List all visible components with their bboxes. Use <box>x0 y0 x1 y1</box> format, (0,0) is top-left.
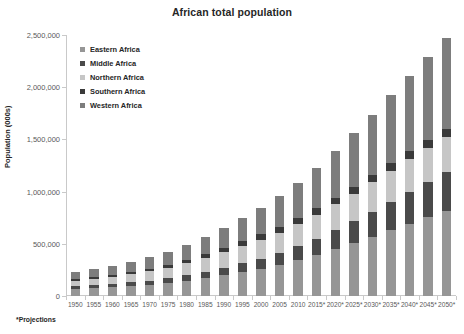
x-tick-label: 2035* <box>382 301 399 308</box>
y-tick-label: 2,500,000 <box>4 31 60 40</box>
bar-segment <box>349 194 359 222</box>
bar-segment <box>423 182 433 218</box>
x-tick-label: 1955 <box>87 301 102 308</box>
bar-segment <box>386 230 396 296</box>
bar-segment <box>238 218 248 241</box>
x-tick-label: 2050* <box>438 301 455 308</box>
legend-item[interactable]: Western Africa <box>80 98 145 112</box>
legend-item[interactable]: Eastern Africa <box>80 42 145 56</box>
chart-title: African total population <box>0 6 464 18</box>
x-tick-label: 2030* <box>364 301 381 308</box>
bar-segment <box>423 148 433 181</box>
bar-segment <box>349 243 359 296</box>
bar-segment <box>331 198 341 205</box>
bar-segment <box>405 159 415 191</box>
bar-segment <box>368 212 378 237</box>
bar-segment <box>442 211 452 296</box>
bar-stack <box>368 115 378 296</box>
x-tick-label: 1990 <box>217 301 232 308</box>
legend-label: Northern Africa <box>90 73 144 82</box>
bar-stack <box>163 252 173 296</box>
x-tick-label: 1995 <box>235 301 250 308</box>
bar-segment <box>201 237 211 254</box>
bar-segment <box>331 151 341 198</box>
legend-item[interactable]: Southern Africa <box>80 84 145 98</box>
bar-segment <box>182 245 192 260</box>
bar-segment <box>163 283 173 296</box>
x-tick-label: 2005 <box>272 301 287 308</box>
bar-segment <box>182 281 192 296</box>
x-tick-label: 1950 <box>68 301 83 308</box>
bar-stack <box>182 245 192 296</box>
y-tick <box>62 192 66 193</box>
bar-segment <box>442 137 452 171</box>
x-tick <box>103 296 104 300</box>
bar-segment <box>331 204 341 230</box>
x-tick-label: 2000 <box>254 301 269 308</box>
bar-segment <box>312 239 322 255</box>
bar-stack <box>349 133 359 296</box>
legend-swatch-icon <box>80 89 85 94</box>
x-tick-label: 1985 <box>198 301 213 308</box>
bar-segment <box>405 151 415 159</box>
x-tick-label: 2025* <box>345 301 362 308</box>
legend-swatch-icon <box>80 61 85 66</box>
bar-segment <box>89 288 99 296</box>
bar-segment <box>238 272 248 296</box>
bar-segment <box>349 187 359 194</box>
x-tick <box>159 296 160 300</box>
bar-segment <box>275 196 285 227</box>
bar-segment <box>219 275 229 296</box>
bar-segment <box>145 271 155 280</box>
bar-segment <box>182 263 192 275</box>
bar-segment <box>219 228 229 248</box>
bar-segment <box>126 274 136 282</box>
x-tick-label: 1975 <box>161 301 176 308</box>
bar-stack <box>442 38 452 296</box>
bar-segment <box>71 289 81 296</box>
bar-segment <box>442 129 452 137</box>
y-tick <box>62 244 66 245</box>
bar-stack <box>201 237 211 296</box>
legend-item[interactable]: Northern Africa <box>80 70 145 84</box>
x-tick <box>215 296 216 300</box>
bar-stack <box>256 208 266 296</box>
bar-segment <box>312 168 322 209</box>
x-tick <box>289 296 290 300</box>
legend-item[interactable]: Middle Africa <box>80 56 145 70</box>
bar-segment <box>368 182 378 211</box>
y-tick <box>62 139 66 140</box>
bar-stack <box>145 257 155 296</box>
x-tick <box>456 296 457 300</box>
legend-label: Eastern Africa <box>90 45 140 54</box>
chart-container: African total population Population (000… <box>0 0 464 334</box>
x-tick-label: 2010 <box>291 301 306 308</box>
bar-segment <box>349 221 359 243</box>
bar-stack <box>293 183 303 296</box>
bar-segment <box>275 265 285 296</box>
bar-segment <box>312 255 322 296</box>
x-tick-label: 2020* <box>327 301 344 308</box>
bar-segment <box>312 215 322 239</box>
bar-segment <box>368 237 378 296</box>
bar-stack <box>238 218 248 296</box>
bar-segment <box>201 278 211 296</box>
bar-stack <box>423 57 433 296</box>
bar-segment <box>201 258 211 272</box>
bar-segment <box>423 217 433 296</box>
bar-stack <box>386 95 396 296</box>
bar-segment <box>368 115 378 175</box>
x-tick <box>122 296 123 300</box>
bar-segment <box>386 202 396 230</box>
bar-segment <box>386 95 396 163</box>
x-tick <box>437 296 438 300</box>
bar-segment <box>293 224 303 246</box>
x-tick-label: 1960 <box>105 301 120 308</box>
bar-segment <box>423 140 433 148</box>
bar-segment <box>275 233 285 253</box>
x-tick-label: 2015* <box>308 301 325 308</box>
y-tick-label: 1,000,000 <box>4 187 60 196</box>
x-tick-label: 1965 <box>124 301 139 308</box>
y-tick-label: 0 <box>4 292 60 301</box>
bar-stack <box>108 266 118 296</box>
